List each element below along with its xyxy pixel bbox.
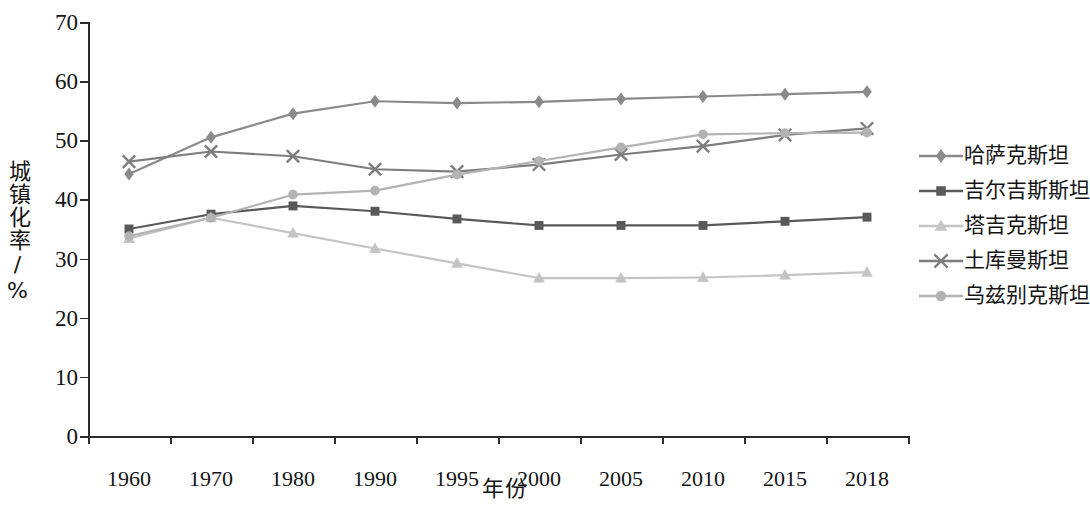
data-point-marker xyxy=(699,221,708,230)
x-axis-tick-label: 2010 xyxy=(681,468,725,490)
y-axis-title: 城镇化率/% xyxy=(6,160,28,304)
diamond-marker-icon xyxy=(918,145,964,167)
data-point-marker xyxy=(452,97,462,110)
y-axis-tick xyxy=(80,22,88,24)
data-point-marker xyxy=(781,217,790,226)
y-axis-tick xyxy=(80,377,88,379)
data-point-marker xyxy=(371,207,380,216)
legend-item-5[interactable]: 乌兹别克斯坦 xyxy=(918,278,1083,313)
x-axis-tick xyxy=(580,436,582,444)
series-line xyxy=(129,133,867,237)
data-point-marker xyxy=(863,213,872,222)
data-point-marker xyxy=(124,231,134,241)
square-marker-icon xyxy=(918,180,964,202)
data-point-marker xyxy=(780,88,790,101)
legend-item-label: 土库曼斯坦 xyxy=(964,250,1069,271)
x-axis-tick-label: 1960 xyxy=(107,468,151,490)
y-axis-tick xyxy=(80,318,88,320)
data-point-marker xyxy=(370,95,380,108)
data-point-marker xyxy=(370,186,380,196)
data-point-marker xyxy=(453,214,462,223)
data-point-marker xyxy=(534,156,544,166)
x-axis-tick xyxy=(88,436,90,444)
data-point-marker xyxy=(616,143,626,153)
data-point-marker xyxy=(206,213,216,223)
series-line xyxy=(129,218,867,278)
legend-item-label: 哈萨克斯坦 xyxy=(964,145,1069,166)
legend-item-2[interactable]: 吉尔吉斯斯坦 xyxy=(918,173,1083,208)
legend-item-label: 乌兹别克斯坦 xyxy=(964,285,1090,306)
data-point-marker xyxy=(452,170,462,180)
series-plot-layer xyxy=(88,22,908,436)
x-axis-tick xyxy=(662,436,664,444)
x-axis-tick-label: 1990 xyxy=(353,468,397,490)
x-axis-tick-label: 1970 xyxy=(189,468,233,490)
data-point-marker xyxy=(288,190,298,200)
y-axis-tick-label: 30 xyxy=(55,247,78,270)
x-axis-tick xyxy=(826,436,828,444)
x-axis-tick xyxy=(252,436,254,444)
x-axis-tick-label: 1980 xyxy=(271,468,315,490)
plot-area: 010203040506070 196019701980199019952000… xyxy=(88,22,908,436)
y-axis-tick xyxy=(80,259,88,261)
x-axis-tick xyxy=(908,436,910,444)
data-point-marker xyxy=(617,221,626,230)
legend-item-1[interactable]: 哈萨克斯坦 xyxy=(918,138,1083,173)
x-axis-tick-label: 2000 xyxy=(517,468,561,490)
x-axis-tick xyxy=(744,436,746,444)
data-point-marker xyxy=(124,167,134,180)
x-axis-tick xyxy=(334,436,336,444)
data-point-marker xyxy=(616,92,626,105)
legend-item-label: 吉尔吉斯斯坦 xyxy=(964,180,1090,201)
data-point-marker xyxy=(698,90,708,103)
y-axis-tick-label: 60 xyxy=(55,70,78,93)
y-axis-tick xyxy=(80,140,88,142)
data-point-marker xyxy=(780,128,790,138)
data-point-marker xyxy=(698,130,708,140)
x-axis-tick-label: 1995 xyxy=(435,468,479,490)
y-axis-tick-label: 0 xyxy=(67,425,79,448)
data-point-marker xyxy=(535,221,544,230)
x-axis-tick-label: 2005 xyxy=(599,468,643,490)
series-5 xyxy=(124,128,872,241)
y-axis-tick-label: 50 xyxy=(55,129,78,152)
chart-legend: 哈萨克斯坦吉尔吉斯斯坦塔吉克斯坦土库曼斯坦乌兹别克斯坦 xyxy=(918,138,1083,313)
data-point-marker xyxy=(288,107,298,120)
x-axis-tick xyxy=(416,436,418,444)
y-axis-tick-label: 70 xyxy=(55,11,78,34)
y-axis-tick-label: 10 xyxy=(55,365,78,388)
cross-marker-icon xyxy=(918,250,964,272)
x-axis-tick-label: 2015 xyxy=(763,468,807,490)
data-point-marker xyxy=(862,128,872,138)
y-axis-tick-label: 20 xyxy=(55,306,78,329)
data-point-marker xyxy=(534,95,544,108)
x-axis-tick xyxy=(170,436,172,444)
x-axis-tick-label: 2018 xyxy=(845,468,889,490)
y-axis-tick xyxy=(80,81,88,83)
legend-item-label: 塔吉克斯坦 xyxy=(964,215,1069,236)
x-axis-tick xyxy=(498,436,500,444)
data-point-marker xyxy=(862,85,872,98)
y-axis-tick-label: 40 xyxy=(55,188,78,211)
y-axis-tick xyxy=(80,199,88,201)
series-2 xyxy=(125,201,872,233)
legend-item-4[interactable]: 土库曼斯坦 xyxy=(918,243,1083,278)
circle-marker-icon xyxy=(918,285,964,307)
data-point-marker xyxy=(289,201,298,210)
triangle-marker-icon xyxy=(918,215,964,237)
series-line xyxy=(129,128,867,171)
y-axis-tick xyxy=(80,436,88,438)
data-point-marker xyxy=(206,131,216,144)
legend-item-3[interactable]: 塔吉克斯坦 xyxy=(918,208,1083,243)
